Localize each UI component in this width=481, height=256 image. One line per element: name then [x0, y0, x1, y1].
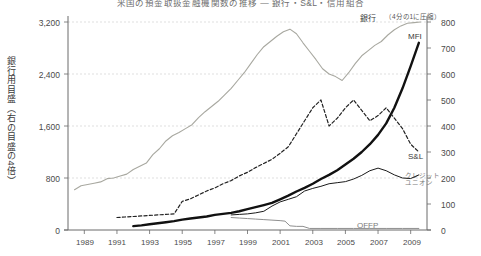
series-lines: [75, 22, 421, 228]
series-path-クレジットユニオン: [231, 168, 419, 215]
axis-lines: [64, 16, 431, 234]
chart-figure: 米国の預金取扱金融機関数の推移 ― 銀行・S&L・信用組合 銀行用目盛（右の目盛…: [0, 0, 481, 256]
series-path-S&L: [117, 100, 419, 218]
series-path-OFFP: [231, 218, 419, 229]
gridlines: [68, 22, 427, 178]
plot-canvas: [0, 0, 481, 256]
series-path-銀行: [75, 22, 421, 190]
